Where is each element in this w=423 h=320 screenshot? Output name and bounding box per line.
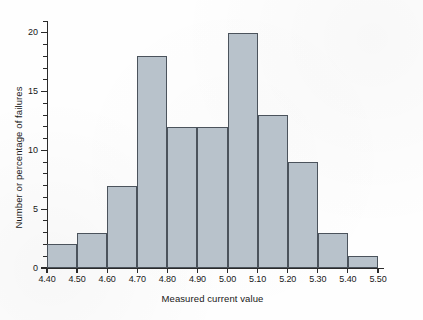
x-tick (377, 268, 378, 273)
histogram-bar (77, 233, 107, 268)
x-tick-label: 5.50 (358, 274, 398, 284)
x-tick (167, 268, 168, 273)
y-tick-minor (43, 68, 48, 69)
x-tick (197, 268, 198, 273)
histogram-bar (137, 56, 167, 268)
y-tick-minor (43, 173, 48, 174)
x-tick (347, 268, 348, 273)
y-tick-minor (43, 115, 48, 116)
histogram-bar (228, 33, 258, 268)
x-tick (317, 268, 318, 273)
histogram-bar (47, 244, 77, 268)
y-tick-label-text: 0 (16, 263, 38, 273)
histogram-bar (197, 127, 227, 268)
x-tick (46, 268, 47, 273)
x-tick (257, 268, 258, 273)
y-tick-label-text: 20 (16, 27, 38, 37)
histogram-figure: Number or percentage of failures 0510152… (0, 0, 423, 320)
x-tick (227, 268, 228, 273)
histogram-bar (167, 127, 197, 268)
histogram-bar (258, 115, 288, 268)
x-tick (137, 268, 138, 273)
y-tick-label: 10 (14, 145, 38, 155)
y-tick-minor (43, 138, 48, 139)
histogram-bar (318, 233, 348, 268)
y-tick-label-text: 10 (16, 145, 38, 155)
y-tick-minor (43, 103, 48, 104)
y-tick-minor (43, 232, 48, 233)
y-tick-minor (43, 220, 48, 221)
histogram-bar (107, 186, 137, 268)
y-tick-label: 15 (14, 86, 38, 96)
y-tick-minor (43, 185, 48, 186)
y-tick-minor (43, 162, 48, 163)
y-tick-minor (43, 56, 48, 57)
histogram-bar (288, 162, 318, 268)
y-tick-minor (43, 21, 48, 22)
histogram-bar (348, 256, 378, 268)
y-tick-label: 20 (14, 27, 38, 37)
y-tick-minor (43, 197, 48, 198)
y-axis-title: Number or percentage of failures (13, 54, 24, 262)
caption-fragment (3, 311, 333, 319)
y-tick-major (41, 209, 48, 210)
y-tick-major (41, 150, 48, 151)
y-tick-minor (43, 79, 48, 80)
y-tick-label: 5 (14, 204, 38, 214)
x-tick (76, 268, 77, 273)
y-tick-minor (43, 44, 48, 45)
y-tick-major (41, 32, 48, 33)
y-tick-label-text: 15 (16, 86, 38, 96)
y-tick-label-text: 5 (16, 204, 38, 214)
x-axis-line (47, 268, 384, 269)
x-tick (287, 268, 288, 273)
x-axis-title: Measured current value (47, 293, 378, 304)
y-tick-minor (43, 126, 48, 127)
y-tick-label: 0 (14, 263, 38, 273)
y-tick-major (41, 91, 48, 92)
plot-area: Number or percentage of failures 0510152… (0, 0, 423, 320)
x-tick (107, 268, 108, 273)
